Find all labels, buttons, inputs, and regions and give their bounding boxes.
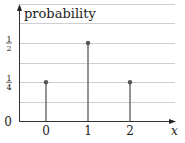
x-tick-label: 2	[126, 124, 134, 138]
y-tick-label: 12	[6, 35, 12, 53]
stem-marker-icon	[128, 80, 132, 84]
y-tick-label: 14	[6, 74, 12, 92]
stem-marker-icon	[44, 80, 48, 84]
y-axis-arrow-icon	[17, 4, 22, 11]
svg-text:1: 1	[6, 74, 11, 83]
y-axis-label: probability	[24, 6, 96, 21]
probability-stem-chart: probability x 01412 012	[0, 0, 185, 143]
stem-marker-icon	[86, 41, 90, 45]
svg-text:1: 1	[6, 35, 11, 44]
x-tick-label: 1	[84, 124, 92, 138]
svg-text:4: 4	[6, 83, 11, 92]
svg-text:2: 2	[6, 44, 11, 53]
x-tick-label: 0	[42, 124, 50, 138]
y-tick-label: 0	[4, 115, 12, 129]
x-axis-label: x	[171, 124, 178, 138]
y-tick-labels: 01412	[4, 35, 12, 129]
stems	[44, 41, 132, 122]
x-tick-labels: 012	[42, 124, 134, 138]
